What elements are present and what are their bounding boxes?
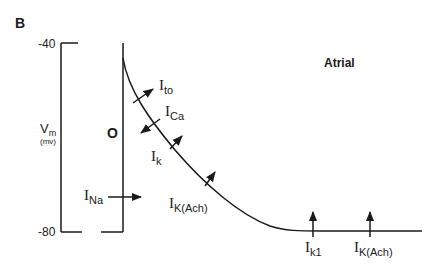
action-potential-diagram: [0, 0, 437, 277]
current-label-ikach-2: IK(Ach): [354, 240, 393, 258]
current-label-ina: INa: [84, 188, 103, 206]
tick-top: -40: [38, 38, 55, 50]
current-label-ik: Ik: [151, 149, 162, 167]
action-potential-trace: [123, 43, 422, 232]
axis-unit: (mv): [40, 138, 56, 146]
diagram-title: Atrial: [324, 57, 355, 69]
current-label-ica: ICa: [165, 104, 184, 122]
panel-label: B: [15, 16, 25, 30]
axis-label: Vm: [40, 122, 56, 138]
ik-arrow-icon: [170, 136, 182, 149]
ica-arrow-icon: [141, 119, 160, 133]
current-label-ik1: Ik1: [305, 240, 322, 258]
phase-label: O: [107, 126, 118, 140]
current-label-ito: Ito: [159, 78, 173, 96]
current-arrows: [108, 89, 370, 237]
current-label-ikach-1: IK(Ach): [169, 196, 208, 214]
tick-bottom: -80: [38, 226, 55, 238]
ikach1-arrow-icon: [205, 172, 215, 186]
